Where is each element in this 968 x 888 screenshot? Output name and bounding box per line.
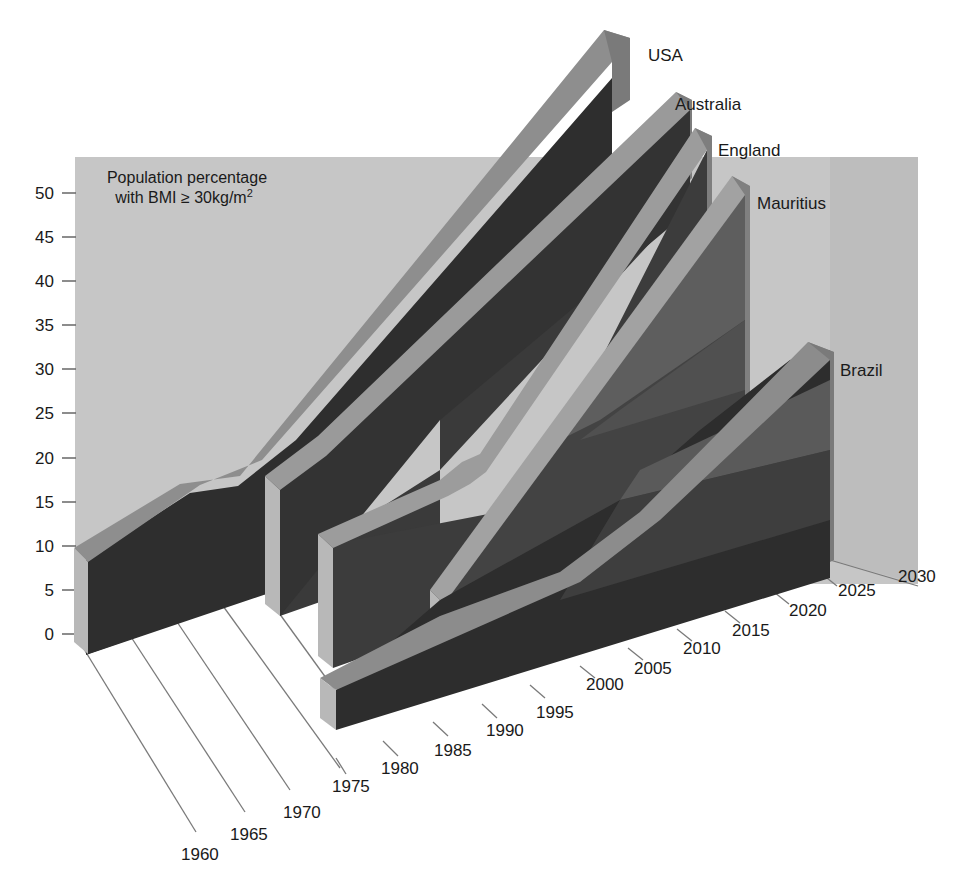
x-tick: 2010 [683, 639, 721, 658]
y-tick: 35 [35, 316, 76, 335]
svg-text:10: 10 [35, 537, 54, 556]
x-tick: 1970 [283, 803, 321, 822]
y-tick: 50 [35, 184, 76, 203]
svg-text:5: 5 [45, 581, 54, 600]
svg-text:40: 40 [35, 272, 54, 291]
y-tick: 40 [35, 272, 76, 291]
x-tick: 1980 [381, 759, 419, 778]
svg-text:15: 15 [35, 493, 54, 512]
x-tick: 1975 [332, 777, 370, 796]
x-tick: 2020 [789, 601, 827, 620]
svg-text:0: 0 [45, 625, 54, 644]
series-label-england: England [718, 141, 780, 160]
x-tick: 2005 [634, 659, 672, 678]
x-tick: 1965 [230, 825, 268, 844]
svg-text:30: 30 [35, 360, 54, 379]
svg-text:with BMI ≥ 30kg/m2: with BMI ≥ 30kg/m2 [114, 187, 253, 206]
series-label-brazil: Brazil [840, 361, 883, 380]
obesity-3d-ribbon-chart: 0 5 10 15 20 25 30 35 40 45 50 Populatio… [0, 0, 968, 888]
svg-text:35: 35 [35, 316, 54, 335]
y-tick: 25 [35, 404, 76, 423]
y-tick: 30 [35, 360, 76, 379]
y-tick: 0 [45, 625, 76, 644]
x-tick: 1990 [486, 721, 524, 740]
x-tick: 2025 [838, 581, 876, 600]
y-tick: 5 [45, 581, 76, 600]
y-tick: 45 [35, 228, 76, 247]
y-tick: 15 [35, 493, 76, 512]
y-tick: 10 [35, 537, 76, 556]
svg-text:Population percentage: Population percentage [107, 169, 267, 186]
svg-text:25: 25 [35, 404, 54, 423]
x-tick: 1985 [434, 741, 472, 760]
x-tick: 1960 [181, 845, 219, 864]
y-axis: 0 5 10 15 20 25 30 35 40 45 50 [35, 184, 76, 644]
x-tick: 2030 [898, 567, 936, 586]
x-tick: 2015 [732, 621, 770, 640]
svg-text:45: 45 [35, 228, 54, 247]
x-tick: 1995 [536, 703, 574, 722]
series-label-mauritius: Mauritius [757, 194, 826, 213]
series-label-usa: USA [648, 46, 684, 65]
series-label-australia: Australia [675, 95, 742, 114]
y-tick: 20 [35, 449, 76, 468]
x-tick: 2000 [586, 675, 624, 694]
svg-text:20: 20 [35, 449, 54, 468]
svg-text:50: 50 [35, 184, 54, 203]
